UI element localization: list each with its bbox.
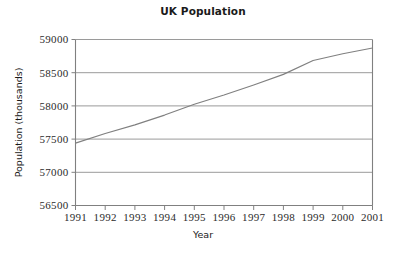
y-axis-ticks	[72, 40, 76, 206]
x-tick-label: 1997	[242, 211, 265, 223]
x-tick-label: 2001	[361, 211, 384, 223]
y-tick-label: 56500	[40, 199, 69, 211]
x-tick-label: 1992	[94, 211, 117, 223]
y-axis-tick-labels: 565005700057500580005850059000	[40, 33, 69, 211]
data-series	[76, 48, 373, 143]
data-line	[76, 48, 373, 143]
y-tick-label: 58500	[40, 67, 69, 79]
chart-plot: 565005700057500580005850059000 199119921…	[0, 0, 406, 258]
gridlines	[76, 40, 373, 206]
axis-frame	[76, 40, 373, 206]
x-axis-title: Year	[0, 229, 406, 240]
y-axis-title-text: Population (thousands)	[13, 68, 24, 178]
y-tick-label: 57000	[40, 166, 69, 178]
y-axis-title: Population (thousands)	[13, 68, 24, 178]
chart-container: UK Population 56500570005750058000585005…	[0, 0, 406, 258]
x-tick-label: 1995	[183, 211, 206, 223]
x-tick-label: 1998	[272, 211, 295, 223]
x-axis-ticks	[76, 206, 373, 211]
x-tick-label: 1994	[153, 211, 176, 223]
x-axis-tick-labels: 1991199219931994199519961997199819992000…	[64, 211, 384, 223]
x-tick-label: 1999	[301, 211, 324, 223]
y-tick-label: 57500	[40, 133, 69, 145]
y-tick-label: 59000	[40, 33, 69, 45]
x-tick-label: 1996	[212, 211, 235, 223]
x-tick-label: 2000	[331, 211, 354, 223]
x-tick-label: 1993	[123, 211, 146, 223]
y-tick-label: 58000	[40, 100, 69, 112]
x-tick-label: 1991	[64, 211, 87, 223]
